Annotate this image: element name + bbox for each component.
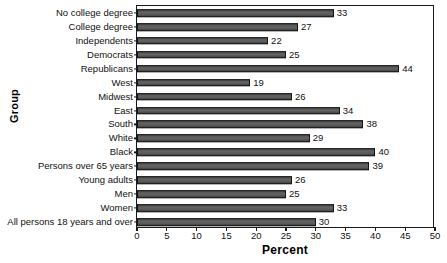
- bar-value-label: 30: [319, 217, 330, 227]
- y-axis-title: Group: [8, 76, 20, 136]
- bar-value-label: 38: [366, 120, 377, 130]
- bar-value-label: 19: [253, 78, 264, 88]
- bar-value-label: 33: [337, 203, 348, 213]
- x-axis-tick-label: 35: [340, 231, 351, 241]
- x-axis-tick-label: 30: [311, 231, 322, 241]
- bar-row-young-adults: Young adults26: [137, 173, 433, 187]
- bar: [137, 162, 369, 170]
- x-axis-tick-label: 40: [370, 231, 381, 241]
- bar: [137, 135, 310, 143]
- x-axis-title: Percent: [136, 243, 434, 257]
- x-axis-tick-label: 50: [430, 231, 441, 241]
- bar-value-label: 22: [271, 36, 282, 46]
- x-axis-tick-label: 0: [134, 231, 139, 241]
- bar: [137, 65, 399, 73]
- bar: [137, 9, 334, 17]
- bar: [137, 218, 316, 226]
- category-label: Democrats: [87, 50, 133, 60]
- bar: [137, 23, 298, 31]
- x-axis-tick-label: 10: [191, 231, 202, 241]
- category-label: White: [109, 134, 133, 144]
- category-label: College degree: [69, 22, 133, 32]
- x-axis-tick-label: 5: [164, 231, 169, 241]
- bar-row-black: Black40: [137, 145, 433, 159]
- bar: [137, 149, 375, 157]
- bar-value-label: 34: [343, 106, 354, 116]
- bar-value-label: 25: [289, 50, 300, 60]
- bar-row-persons-over-65-years: Persons over 65 years39: [137, 159, 433, 173]
- bar-row-independents: Independents22: [137, 34, 433, 48]
- bar-value-label: 44: [402, 64, 413, 74]
- bar: [137, 93, 292, 101]
- bar-value-label: 26: [295, 92, 306, 102]
- bar-row-east: East34: [137, 104, 433, 118]
- category-label: Republicans: [81, 64, 133, 74]
- bar-value-label: 25: [289, 189, 300, 199]
- bar-value-label: 29: [313, 134, 324, 144]
- bar: [137, 204, 334, 212]
- bar-row-west: West19: [137, 76, 433, 90]
- bar-row-college-degree: College degree27: [137, 20, 433, 34]
- bar-value-label: 39: [372, 162, 383, 172]
- x-axis-tick-label: 20: [251, 231, 262, 241]
- bar-value-label: 40: [378, 148, 389, 158]
- bar: [137, 176, 292, 184]
- bar: [137, 121, 363, 129]
- bar: [137, 79, 250, 87]
- category-label: Women: [100, 203, 133, 213]
- x-axis-tick-label: 15: [221, 231, 232, 241]
- bar-row-midwest: Midwest26: [137, 90, 433, 104]
- bar-row-republicans: Republicans44: [137, 62, 433, 76]
- category-label: Men: [115, 189, 133, 199]
- category-label: South: [108, 120, 133, 130]
- plot-area: No college degree33College degree27Indep…: [136, 5, 434, 228]
- bar: [137, 51, 286, 59]
- bar: [137, 107, 340, 115]
- category-label: Independents: [75, 36, 133, 46]
- x-axis-tick-label: 25: [281, 231, 292, 241]
- category-label: West: [112, 78, 133, 88]
- bar-row-white: White29: [137, 131, 433, 145]
- category-label: Midwest: [98, 92, 133, 102]
- category-label: No college degree: [56, 8, 133, 18]
- category-label: All persons 18 years and over: [7, 217, 133, 227]
- bar: [137, 37, 268, 45]
- bar-row-no-college-degree: No college degree33: [137, 6, 433, 20]
- category-label: Black: [110, 148, 133, 158]
- bar-row-south: South38: [137, 118, 433, 132]
- x-axis-tick-label: 45: [400, 231, 411, 241]
- bar-row-democrats: Democrats25: [137, 48, 433, 62]
- bar: [137, 190, 286, 198]
- category-label: Young adults: [78, 175, 133, 185]
- bar-value-label: 26: [295, 175, 306, 185]
- bar-value-label: 27: [301, 22, 312, 32]
- bar-chart: Group No college degree33College degree2…: [0, 0, 447, 263]
- category-label: East: [114, 106, 133, 116]
- bar-value-label: 33: [337, 8, 348, 18]
- category-label: Persons over 65 years: [38, 162, 133, 172]
- bar-row-men: Men25: [137, 187, 433, 201]
- bar-row-women: Women33: [137, 201, 433, 215]
